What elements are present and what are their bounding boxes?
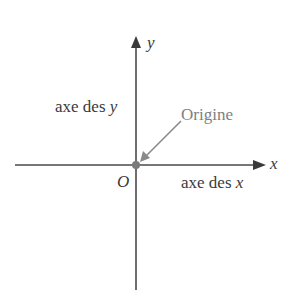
coordinate-plane-diagram: y x axe des y Origine O axe des x <box>0 0 299 300</box>
y-axis-name: axe des y <box>55 97 118 116</box>
x-axis-arrowhead-icon <box>253 160 266 170</box>
y-axis-name-var: y <box>108 97 118 116</box>
y-axis-label: y <box>145 33 155 52</box>
x-axis-label: x <box>269 154 278 173</box>
x-axis-name: axe des x <box>181 173 244 192</box>
x-axis-name-var: x <box>235 173 244 192</box>
y-axis-name-text: axe des <box>55 97 110 116</box>
x-axis-name-text: axe des <box>181 173 236 192</box>
origin-dot <box>132 161 140 169</box>
origin-symbol: O <box>117 172 129 191</box>
y-axis-arrowhead-icon <box>131 36 141 48</box>
origin-callout-line <box>145 121 181 157</box>
origin-callout-label: Origine <box>181 105 233 124</box>
